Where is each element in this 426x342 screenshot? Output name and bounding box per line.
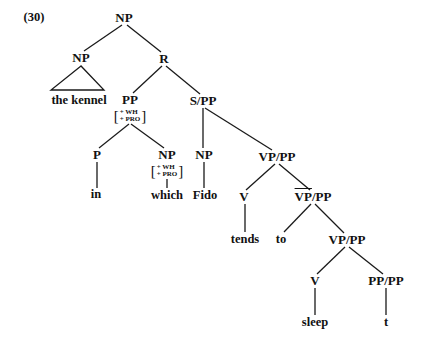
example-number: (30) <box>24 10 45 25</box>
leaf-tends: tends <box>231 232 259 247</box>
tree-branches <box>0 0 426 342</box>
node-vp-pp-lower: VP/PP <box>329 232 366 248</box>
branch <box>133 66 162 93</box>
leaf-to: to <box>276 232 286 247</box>
leaf-the-kennel: the kennel <box>51 93 106 108</box>
node-p: P <box>93 147 101 163</box>
slash-pp-label: /PP <box>312 189 332 204</box>
branch <box>127 25 161 52</box>
node-v-sleep: V <box>310 273 319 289</box>
branch <box>279 164 310 190</box>
leaf-trace-t: t <box>384 315 388 330</box>
branch <box>315 204 344 233</box>
feature-pro: + PRO <box>157 171 178 178</box>
node-np-fido: NP <box>195 147 212 163</box>
branch <box>349 247 383 274</box>
branch <box>284 204 311 232</box>
node-vbar-pp: VP/PP <box>295 189 332 205</box>
vbar-label: VP <box>295 189 312 204</box>
branch <box>131 124 164 148</box>
feature-pro: + PRO <box>120 116 141 123</box>
branch <box>166 66 200 94</box>
node-np-root: NP <box>115 10 132 26</box>
node-s-pp: S/PP <box>190 93 217 109</box>
node-pp: PP <box>122 92 138 108</box>
branch <box>246 164 275 190</box>
leaf-in: in <box>91 187 101 202</box>
leaf-which: which <box>151 188 183 203</box>
node-np-left: NP <box>72 50 89 66</box>
leaf-sleep: sleep <box>302 315 328 330</box>
feature-matrix-np: [ + WH + PRO ] <box>151 164 184 178</box>
triangle-icon <box>51 66 104 90</box>
node-v-tends: V <box>239 189 248 205</box>
node-pp-pp: PP/PP <box>368 273 403 289</box>
node-np-which: NP <box>158 147 175 163</box>
node-vp-pp: VP/PP <box>259 149 296 165</box>
leaf-fido: Fido <box>193 188 217 203</box>
node-r: R <box>159 51 168 67</box>
branch <box>99 124 129 148</box>
branch <box>205 108 272 150</box>
branch <box>84 25 122 51</box>
branch <box>317 247 345 274</box>
feature-matrix-pp: [ + WH + PRO ] <box>114 109 147 123</box>
